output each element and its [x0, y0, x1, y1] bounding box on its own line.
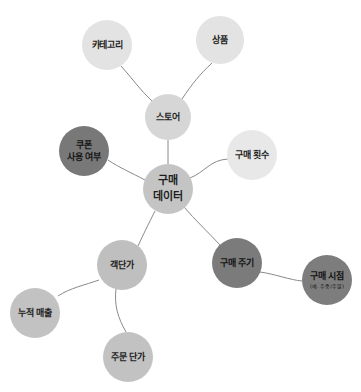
node-category: 카테고리 — [82, 20, 132, 70]
node-label: 카테고리 — [92, 39, 123, 51]
edge-store-product — [182, 63, 212, 99]
edge-center-aov — [138, 211, 155, 246]
node-label: 객단가 — [110, 259, 133, 271]
node-label: 구매 횟수 — [235, 149, 269, 161]
node-label-line2: 데이터 — [153, 189, 182, 205]
edge-center-count — [190, 159, 228, 178]
node-label: 상품 — [212, 34, 227, 46]
node-store: 스토어 — [145, 94, 191, 140]
node-label: 주문 단가 — [111, 351, 145, 363]
edge-aov-cumulative — [58, 280, 99, 296]
node-label-line1: 쿠폰 — [76, 139, 91, 151]
node-product: 상품 — [196, 16, 244, 64]
node-purchase-count: 구매 횟수 — [227, 130, 277, 180]
mind-map-canvas: 카테고리 상품 스토어 쿠폰 사용 여부 구매 횟수 구매 데이터 객단가 구매… — [0, 0, 361, 392]
node-purchase-data-center: 구매 데이터 — [143, 164, 193, 214]
node-coupon-usage: 쿠폰 사용 여부 — [59, 126, 109, 176]
node-label-line2: 사용 여부 — [67, 151, 101, 163]
edge-center-cycle — [184, 207, 220, 245]
node-purchase-time: 구매 시점 (예. 주중/주말) — [302, 255, 352, 305]
node-label: 구매 시점 — [310, 270, 344, 282]
edge-aov-unitprice — [115, 289, 126, 332]
node-order-unit-price: 주문 단가 — [103, 332, 153, 382]
node-sublabel: (예. 주중/주말) — [310, 283, 344, 290]
edge-cycle-time — [260, 272, 302, 281]
node-label: 구매 주기 — [220, 257, 254, 269]
node-label: 누적 매출 — [18, 307, 52, 319]
node-cumulative-sales: 누적 매출 — [10, 288, 60, 338]
node-label-line1: 구매 — [158, 173, 177, 189]
edge-center-coupon — [108, 160, 145, 180]
edge-store-category — [121, 66, 152, 101]
node-purchase-cycle: 구매 주기 — [212, 238, 262, 288]
node-avg-order-value: 객단가 — [97, 240, 147, 290]
node-label: 스토어 — [156, 111, 179, 123]
